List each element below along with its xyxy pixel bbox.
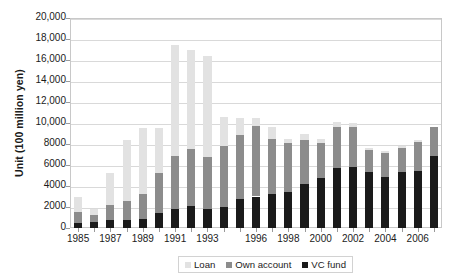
bar-column[interactable]: [236, 18, 244, 228]
bar-segment-vc-fund: [284, 192, 292, 228]
bar-segment-own-account: [333, 127, 341, 168]
x-tick-mark: [159, 228, 160, 232]
bar-segment-loan: [106, 173, 114, 205]
bar-segment-vc-fund: [171, 209, 179, 228]
bar-segment-loan: [155, 128, 163, 173]
bar-segment-own-account: [414, 142, 422, 171]
bars-layer: [70, 18, 442, 228]
bar-column[interactable]: [333, 18, 341, 228]
bar-segment-vc-fund: [123, 220, 131, 228]
x-tick-mark: [224, 228, 225, 232]
bar-segment-own-account: [430, 127, 438, 155]
bar-segment-loan: [317, 139, 325, 143]
x-tick-mark: [321, 228, 322, 232]
bar-segment-own-account: [171, 156, 179, 210]
bar-segment-own-account: [155, 173, 163, 213]
legend-item[interactable]: Loan: [185, 259, 215, 270]
x-tick-mark: [288, 228, 289, 232]
bar-segment-vc-fund: [300, 184, 308, 228]
bar-segment-own-account: [187, 149, 195, 206]
bar-segment-vc-fund: [349, 167, 357, 228]
bar-segment-vc-fund: [252, 197, 260, 229]
bar-segment-loan: [74, 197, 82, 213]
bar-segment-vc-fund: [381, 177, 389, 228]
legend-label: Loan: [194, 259, 215, 270]
bar-segment-own-account: [252, 126, 260, 196]
bar-segment-vc-fund: [365, 172, 373, 228]
bar-segment-own-account: [300, 140, 308, 184]
bar-column[interactable]: [155, 18, 163, 228]
legend-label: VC fund: [311, 259, 346, 270]
bar-column[interactable]: [171, 18, 179, 228]
bar-segment-vc-fund: [139, 219, 147, 228]
bar-segment-vc-fund: [106, 220, 114, 228]
bar-segment-loan: [123, 140, 131, 201]
bar-segment-own-account: [365, 150, 373, 172]
bar-segment-own-account: [349, 127, 357, 167]
x-tick-mark: [175, 228, 176, 232]
x-tick-label: 2006: [398, 233, 438, 244]
bar-segment-loan: [398, 146, 406, 148]
x-tick-mark: [353, 228, 354, 232]
bar-segment-loan: [333, 122, 341, 127]
bar-column[interactable]: [414, 18, 422, 228]
bar-segment-loan: [349, 123, 357, 127]
bar-segment-loan: [220, 117, 228, 146]
bar-segment-own-account: [203, 157, 211, 210]
bar-column[interactable]: [187, 18, 195, 228]
legend-swatch-icon: [226, 262, 232, 268]
bar-column[interactable]: [430, 18, 438, 228]
bar-column[interactable]: [106, 18, 114, 228]
x-tick-mark: [256, 228, 257, 232]
bar-segment-vc-fund: [414, 171, 422, 228]
x-tick-mark: [78, 228, 79, 232]
x-tick-mark: [418, 228, 419, 232]
bar-column[interactable]: [139, 18, 147, 228]
bar-segment-loan: [171, 45, 179, 155]
bar-segment-vc-fund: [333, 168, 341, 228]
legend-swatch-icon: [302, 262, 308, 268]
x-tick-mark: [240, 228, 241, 232]
bar-segment-vc-fund: [220, 207, 228, 228]
bar-segment-loan: [284, 139, 292, 143]
bar-column[interactable]: [203, 18, 211, 228]
legend-item[interactable]: Own account: [226, 259, 291, 270]
bar-segment-loan: [268, 127, 276, 139]
bar-segment-own-account: [106, 205, 114, 220]
bar-segment-vc-fund: [268, 194, 276, 228]
bar-column[interactable]: [268, 18, 276, 228]
bar-column[interactable]: [365, 18, 373, 228]
bar-segment-loan: [414, 140, 422, 142]
bar-column[interactable]: [300, 18, 308, 228]
x-tick-mark: [191, 228, 192, 232]
bar-segment-own-account: [236, 135, 244, 199]
bar-segment-loan: [252, 118, 260, 126]
y-axis-title: Unit (100 million yen): [13, 18, 25, 228]
bar-column[interactable]: [90, 18, 98, 228]
x-tick-mark: [143, 228, 144, 232]
x-tick-mark: [402, 228, 403, 232]
bar-column[interactable]: [317, 18, 325, 228]
bar-segment-loan: [90, 209, 98, 215]
bar-segment-own-account: [139, 194, 147, 218]
x-axis: 1985198719891991199319961998200020022004…: [70, 228, 442, 254]
bar-segment-loan: [203, 56, 211, 157]
bar-column[interactable]: [123, 18, 131, 228]
bar-column[interactable]: [398, 18, 406, 228]
x-tick-mark: [337, 228, 338, 232]
bar-column[interactable]: [252, 18, 260, 228]
bar-column[interactable]: [349, 18, 357, 228]
bar-segment-own-account: [90, 215, 98, 222]
bar-segment-vc-fund: [430, 156, 438, 228]
bar-column[interactable]: [220, 18, 228, 228]
bar-column[interactable]: [381, 18, 389, 228]
stacked-bar-chart: Unit (100 million yen) 20,00018,00016,00…: [0, 0, 458, 280]
x-tick-mark: [385, 228, 386, 232]
bar-segment-own-account: [398, 148, 406, 172]
bar-column[interactable]: [284, 18, 292, 228]
x-tick-mark: [110, 228, 111, 232]
bar-segment-vc-fund: [203, 209, 211, 228]
legend-item[interactable]: VC fund: [302, 259, 346, 270]
bar-column[interactable]: [74, 18, 82, 228]
bar-segment-own-account: [220, 146, 228, 207]
